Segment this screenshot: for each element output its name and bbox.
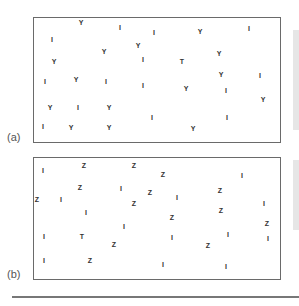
glyph-y: Y (198, 28, 203, 35)
glyph-y: Y (52, 58, 57, 65)
glyph-i: I (142, 56, 144, 63)
glyph-i: I (225, 87, 227, 94)
glyph-i: I (171, 234, 173, 241)
glyph-z: Z (218, 187, 222, 194)
glyph-i: I (176, 194, 178, 201)
glyph-z: Z (206, 242, 210, 249)
glyph-i: I (119, 24, 121, 31)
glyph-i: I (226, 114, 228, 121)
glyph-i: I (43, 233, 45, 240)
glyph-i: I (42, 167, 44, 174)
glyph-z: Z (219, 207, 223, 214)
glyph-y: Y (136, 42, 141, 49)
glyph-y: Y (107, 124, 112, 131)
glyph-y: Y (69, 124, 74, 131)
panel-a-label: (a) (7, 131, 20, 143)
glyph-y: Y (219, 71, 224, 78)
panel-b-frame (33, 157, 281, 280)
glyph-y: Y (74, 76, 79, 83)
glyph-i: I (241, 172, 243, 179)
bottom-rule (12, 296, 299, 298)
glyph-i: I (142, 82, 144, 89)
glyph-z: Z (78, 184, 82, 191)
cropped-text-column-a (293, 30, 299, 130)
glyph-i: I (162, 261, 164, 268)
glyph-i: I (44, 78, 46, 85)
glyph-z: Z (265, 220, 269, 227)
glyph-z: Z (88, 257, 92, 264)
glyph-i: I (227, 231, 229, 238)
glyph-y: Y (107, 104, 112, 111)
glyph-i: I (259, 72, 261, 79)
glyph-i: I (42, 123, 44, 130)
glyph-i: I (151, 114, 153, 121)
glyph-y: Y (102, 48, 107, 55)
panel-b-label: (b) (7, 268, 20, 280)
glyph-y: Y (217, 50, 222, 57)
glyph-z: Z (148, 189, 152, 196)
glyph-z: Z (161, 171, 165, 178)
glyph-i: I (263, 200, 265, 207)
glyph-i: I (225, 263, 227, 270)
glyph-y: Y (261, 96, 266, 103)
glyph-z: Z (132, 162, 136, 169)
cropped-text-column-b (293, 160, 299, 230)
glyph-i: I (153, 29, 155, 36)
glyph-z: Z (35, 196, 39, 203)
glyph-i: I (105, 78, 107, 85)
glyph-z: Z (112, 241, 116, 248)
glyph-i: I (120, 185, 122, 192)
glyph-t: T (80, 233, 84, 240)
glyph-i: I (85, 209, 87, 216)
glyph-z: Z (170, 214, 174, 221)
glyph-i: I (267, 235, 269, 242)
glyph-y: Y (48, 104, 53, 111)
glyph-z: Z (82, 162, 86, 169)
glyph-i: I (60, 196, 62, 203)
glyph-y: Y (79, 19, 84, 26)
glyph-y: Y (191, 125, 196, 132)
glyph-i: I (77, 104, 79, 111)
glyph-i: I (43, 257, 45, 264)
glyph-y: Y (184, 85, 189, 92)
glyph-t: T (180, 58, 184, 65)
glyph-i: I (123, 223, 125, 230)
glyph-i: I (248, 25, 250, 32)
glyph-z: Z (132, 200, 136, 207)
glyph-i: I (51, 36, 53, 43)
